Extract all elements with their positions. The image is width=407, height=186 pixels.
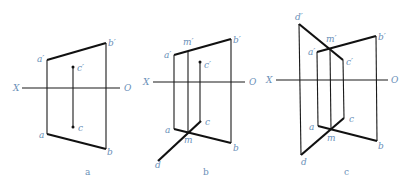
caption-c: c (344, 167, 349, 177)
projection-line-b (376, 36, 377, 141)
point-c (72, 126, 75, 129)
label-b: b (233, 143, 239, 153)
label-m: m (327, 133, 336, 143)
caption-a: a (85, 167, 91, 177)
label-c: c (205, 117, 210, 127)
label-b-prime: b′ (233, 35, 241, 45)
caption-b: b (203, 167, 209, 177)
label-c: c (349, 114, 354, 124)
line-c-d (301, 118, 344, 155)
figure-a: a′ b′ c′ X O a b c a (12, 38, 132, 177)
label-a-prime: a′ (37, 54, 44, 64)
label-c: c (78, 123, 83, 133)
projection-line-c (343, 60, 344, 118)
label-a: a (39, 130, 44, 140)
label-b-prime: b′ (378, 32, 386, 42)
label-b: b (107, 147, 113, 157)
point-c-prime (72, 66, 75, 69)
line-a-b (174, 129, 231, 143)
label-o: O (124, 83, 132, 93)
label-b: b (378, 141, 384, 151)
label-d: d (301, 157, 307, 167)
label-b-prime: b′ (108, 38, 116, 48)
figure-b: a′ m′ b′ c′ X O a m b c d b (142, 35, 257, 177)
label-o: O (249, 77, 257, 87)
label-c-prime: c′ (346, 57, 353, 67)
projection-line-a (317, 52, 318, 126)
label-x: X (265, 75, 273, 85)
label-a-prime: a′ (164, 50, 171, 60)
figure-c: d′ m′ a′ b′ c′ X O a m b c d c (265, 12, 399, 177)
projection-diagram: a′ b′ c′ X O a b c a a′ m′ b′ c′ X O a m… (0, 0, 407, 186)
label-x: X (142, 77, 150, 87)
label-c-prime: c′ (77, 63, 84, 73)
label-c-prime: c′ (204, 60, 211, 70)
label-d-prime: d′ (295, 12, 303, 22)
label-a: a (309, 122, 314, 132)
label-a-prime: a′ (308, 47, 315, 57)
label-m-prime: m′ (326, 34, 337, 44)
label-m-prime: m′ (183, 37, 194, 47)
label-m: m (184, 135, 193, 145)
label-o: O (391, 75, 399, 85)
point-c-prime (199, 61, 202, 64)
line-a-prime-b-prime (47, 43, 106, 60)
projection-line-m (330, 49, 331, 130)
line-a-b (47, 134, 106, 149)
label-d: d (155, 160, 161, 170)
label-a: a (165, 125, 170, 135)
label-x: X (12, 83, 20, 93)
projection-line-d (299, 24, 301, 155)
